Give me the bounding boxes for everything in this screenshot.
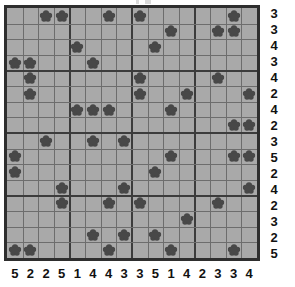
grid-cell-empty[interactable]	[23, 211, 39, 227]
grid-cell-empty[interactable]	[38, 149, 54, 165]
grid-cell-empty[interactable]	[85, 24, 101, 40]
grid-cell-empty[interactable]	[101, 117, 117, 133]
grid-cell-empty[interactable]	[7, 39, 23, 55]
grid-cell-empty[interactable]	[85, 196, 101, 212]
grid-cell-empty[interactable]	[70, 227, 86, 243]
grid-cell-filled[interactable]	[226, 117, 242, 133]
grid-cell-empty[interactable]	[226, 102, 242, 118]
grid-cell-empty[interactable]	[38, 164, 54, 180]
grid-cell-empty[interactable]	[38, 196, 54, 212]
grid-cell-empty[interactable]	[132, 149, 148, 165]
grid-cell-filled[interactable]	[132, 196, 148, 212]
grid-cell-filled[interactable]	[23, 86, 39, 102]
grid-cell-empty[interactable]	[132, 133, 148, 149]
grid-cell-empty[interactable]	[70, 242, 86, 258]
grid-cell-empty[interactable]	[195, 133, 211, 149]
grid-cell-empty[interactable]	[241, 227, 257, 243]
grid-cell-empty[interactable]	[7, 86, 23, 102]
grid-cell-empty[interactable]	[132, 55, 148, 71]
grid-cell-empty[interactable]	[38, 211, 54, 227]
grid-cell-empty[interactable]	[70, 86, 86, 102]
grid-cell-empty[interactable]	[70, 211, 86, 227]
grid-cell-empty[interactable]	[38, 86, 54, 102]
grid-cell-empty[interactable]	[179, 180, 195, 196]
grid-cell-empty[interactable]	[23, 180, 39, 196]
grid-cell-empty[interactable]	[148, 149, 164, 165]
grid-cell-empty[interactable]	[38, 180, 54, 196]
grid-cell-empty[interactable]	[195, 39, 211, 55]
grid-cell-empty[interactable]	[241, 133, 257, 149]
grid-cell-empty[interactable]	[116, 39, 132, 55]
grid-cell-empty[interactable]	[54, 149, 70, 165]
grid-cell-empty[interactable]	[23, 196, 39, 212]
grid-cell-filled[interactable]	[210, 196, 226, 212]
grid-cell-empty[interactable]	[38, 242, 54, 258]
grid-cell-filled[interactable]	[116, 133, 132, 149]
grid-cell-empty[interactable]	[210, 149, 226, 165]
grid-cell-empty[interactable]	[116, 8, 132, 24]
grid-cell-empty[interactable]	[163, 86, 179, 102]
grid-cell-empty[interactable]	[148, 196, 164, 212]
grid-cell-empty[interactable]	[195, 117, 211, 133]
grid-cell-empty[interactable]	[38, 39, 54, 55]
grid-cell-empty[interactable]	[54, 227, 70, 243]
grid-cell-empty[interactable]	[163, 117, 179, 133]
grid-cell-filled[interactable]	[23, 71, 39, 87]
grid-cell-empty[interactable]	[179, 196, 195, 212]
grid-cell-filled[interactable]	[210, 71, 226, 87]
grid-cell-filled[interactable]	[148, 164, 164, 180]
grid-cell-empty[interactable]	[116, 86, 132, 102]
grid-cell-filled[interactable]	[101, 8, 117, 24]
grid-cell-empty[interactable]	[70, 133, 86, 149]
grid-cell-filled[interactable]	[210, 24, 226, 40]
grid-cell-empty[interactable]	[70, 149, 86, 165]
grid-cell-empty[interactable]	[38, 117, 54, 133]
grid-cell-empty[interactable]	[195, 164, 211, 180]
grid-cell-empty[interactable]	[54, 24, 70, 40]
grid-cell-empty[interactable]	[85, 86, 101, 102]
grid-cell-filled[interactable]	[101, 102, 117, 118]
grid-cell-empty[interactable]	[148, 102, 164, 118]
grid-cell-empty[interactable]	[70, 180, 86, 196]
grid-cell-empty[interactable]	[101, 133, 117, 149]
grid-cell-empty[interactable]	[210, 39, 226, 55]
grid-cell-empty[interactable]	[195, 102, 211, 118]
grid-cell-empty[interactable]	[163, 55, 179, 71]
grid-cell-filled[interactable]	[163, 149, 179, 165]
grid-cell-empty[interactable]	[226, 39, 242, 55]
grid-cell-empty[interactable]	[148, 86, 164, 102]
grid-cell-empty[interactable]	[101, 164, 117, 180]
grid-cell-empty[interactable]	[241, 164, 257, 180]
grid-cell-empty[interactable]	[116, 55, 132, 71]
grid-cell-filled[interactable]	[85, 133, 101, 149]
puzzle-grid[interactable]	[4, 5, 260, 261]
grid-cell-empty[interactable]	[54, 71, 70, 87]
grid-cell-filled[interactable]	[7, 242, 23, 258]
grid-cell-empty[interactable]	[179, 102, 195, 118]
grid-cell-filled[interactable]	[148, 227, 164, 243]
grid-cell-empty[interactable]	[148, 55, 164, 71]
grid-cell-filled[interactable]	[7, 164, 23, 180]
grid-cell-empty[interactable]	[226, 164, 242, 180]
grid-cell-empty[interactable]	[23, 164, 39, 180]
grid-cell-empty[interactable]	[226, 55, 242, 71]
grid-cell-empty[interactable]	[210, 8, 226, 24]
grid-cell-filled[interactable]	[132, 8, 148, 24]
grid-cell-filled[interactable]	[85, 55, 101, 71]
grid-cell-empty[interactable]	[132, 211, 148, 227]
grid-cell-empty[interactable]	[7, 8, 23, 24]
grid-cell-empty[interactable]	[54, 164, 70, 180]
grid-cell-filled[interactable]	[23, 55, 39, 71]
grid-cell-empty[interactable]	[163, 133, 179, 149]
grid-cell-empty[interactable]	[163, 39, 179, 55]
grid-cell-empty[interactable]	[210, 242, 226, 258]
grid-cell-filled[interactable]	[101, 242, 117, 258]
grid-cell-empty[interactable]	[132, 227, 148, 243]
grid-cell-filled[interactable]	[226, 24, 242, 40]
grid-cell-filled[interactable]	[226, 8, 242, 24]
grid-cell-empty[interactable]	[148, 117, 164, 133]
grid-cell-empty[interactable]	[38, 102, 54, 118]
grid-cell-filled[interactable]	[241, 86, 257, 102]
grid-cell-filled[interactable]	[116, 227, 132, 243]
grid-cell-empty[interactable]	[163, 227, 179, 243]
